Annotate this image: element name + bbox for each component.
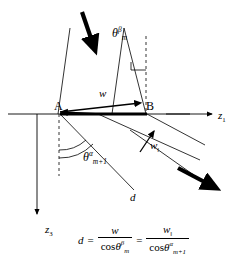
angle-theta-alpha-subscript: m+1 <box>93 157 107 166</box>
vector-w-arrow <box>60 103 140 112</box>
equation-fraction-2-numerator-subscript: ‖ <box>170 230 172 237</box>
equation-equals-2: = <box>136 234 142 246</box>
equation-fraction-1-subscript: m <box>124 247 129 254</box>
vector-label-w: w <box>99 88 106 99</box>
point-label-b: B <box>146 100 154 112</box>
equation-equals-1: = <box>88 234 94 246</box>
equation-fraction-1-cos: cos <box>101 240 116 252</box>
point-label-a: A <box>54 100 63 112</box>
equation-fraction-2-cos: cos <box>149 241 164 253</box>
vector-label-w-parallel: w‖ <box>150 140 159 154</box>
equation-fraction-1-superscript: β <box>121 239 124 246</box>
equation-fraction-2-subscript: m+1 <box>173 248 186 255</box>
axis-label-z3: z3 <box>45 224 53 238</box>
angle-label-theta-beta: θβm <box>112 26 127 42</box>
angle-theta-beta-subscript: m <box>122 33 127 42</box>
bold-arrow-incoming <box>82 12 95 50</box>
axis-label-z1-subscript: 1 <box>222 116 225 123</box>
equation-fraction-1-numerator: w <box>108 225 121 238</box>
vector-label-w-parallel-subscript: ‖ <box>157 146 159 153</box>
bold-arrow-outgoing <box>178 168 216 188</box>
angle-arc-theta-alpha <box>59 140 86 150</box>
equation-fraction-1-denominator: cosθβm <box>98 237 132 254</box>
equation-lhs: d <box>78 234 84 246</box>
equation-formula: d = w cosθβm = w‖ cosθαm+1 <box>78 224 189 255</box>
equation-fraction-2-denominator: cosθαm+1 <box>146 238 189 255</box>
equation-fraction-1: w cosθβm <box>98 225 132 255</box>
equation-fraction-2: w‖ cosθαm+1 <box>146 224 189 255</box>
boundary-lower-upper <box>98 114 200 160</box>
figure-container: A B w w‖ d θβm θαm+1 z1 z3 d = w cosθβm … <box>0 0 240 266</box>
equation-fraction-2-superscript: α <box>169 240 173 247</box>
axis-label-z1: z1 <box>218 110 226 124</box>
length-label-d: d <box>130 192 136 203</box>
lamella-boundary-right-upper <box>124 28 146 114</box>
axis-label-z3-subscript: 3 <box>49 230 52 237</box>
angle-label-theta-alpha: θαm+1 <box>83 150 107 166</box>
equation-fraction-2-numerator: w‖ <box>160 224 175 238</box>
